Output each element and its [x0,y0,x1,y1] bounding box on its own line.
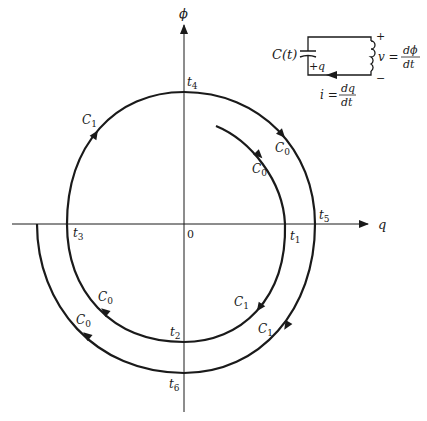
svg-text:t1: t1 [290,229,301,245]
curve-label-c0-inner-right: C0 [252,162,267,178]
svg-text:C1: C1 [234,295,249,311]
svg-text:C0: C0 [252,162,267,178]
svg-text:t3: t3 [73,226,84,242]
curve-label-c1-inner-lower-right: C1 [234,295,249,311]
svg-text:t4: t4 [187,75,198,91]
minus-terminal: − [376,72,385,85]
voltage-lhs: v = [378,50,399,64]
svg-text:C0: C0 [76,313,91,329]
svg-text:t6: t6 [169,377,180,393]
capacitor-label: C(t) [272,47,297,62]
current-denominator: dt [341,96,353,109]
time-label-t6: t6 [169,377,180,393]
time-label-t3: t3 [73,226,84,242]
voltage-numerator: dϕ [403,44,418,57]
q-axis-label: q [378,217,386,232]
charge-sign: + [309,60,318,73]
plus-terminal: + [376,30,385,43]
time-label-t1: t1 [290,229,301,245]
time-label-t2: t2 [170,325,181,341]
time-label-t5: t5 [319,208,330,224]
svg-text:t5: t5 [319,208,330,224]
charge-label: q [318,60,325,73]
current-arrow-icon [326,71,337,79]
phi-axis-label: ϕ [179,6,188,21]
phase-plane-diagram: q ϕ 0 t1 t2 t3 t4 t5 t6 C1 C0 C0 C1 [0,0,427,421]
svg-text:C1: C1 [258,322,273,338]
current-lhs: i = [320,88,338,102]
lc-circuit-inset: C(t) + q + − v = dϕ dt i = dq dt [272,30,420,109]
curve-label-c0-inner-lower-left: C0 [98,290,113,306]
svg-text:t2: t2 [170,325,181,341]
svg-text:C1: C1 [82,113,97,129]
current-numerator: dq [341,82,355,95]
time-label-t4: t4 [187,75,198,91]
curve-label-c1-upper-left: C1 [82,113,97,129]
inductor-icon [371,41,375,71]
curve-label-c0-outer-lower-left: C0 [76,313,91,329]
voltage-denominator: dt [403,58,415,71]
curve-label-c1-outer-lower-right: C1 [258,322,273,338]
origin-label: 0 [187,228,194,241]
svg-text:C0: C0 [98,290,113,306]
